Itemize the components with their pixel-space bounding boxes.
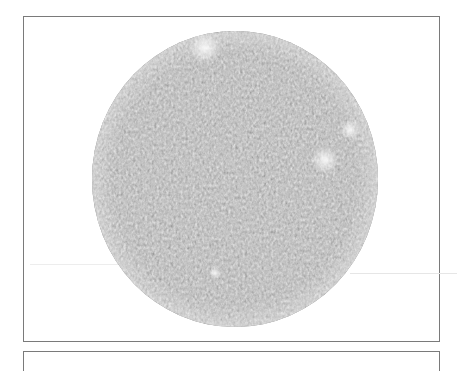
pattern-disc: [92, 31, 378, 327]
